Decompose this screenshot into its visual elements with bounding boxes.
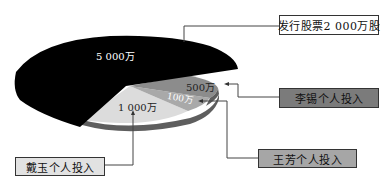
slice-label-daiyu: 1 000万 [118,99,157,114]
callout-daiyu: 戴玉个人投入 [15,157,105,176]
callout-issue: 发行股票2 000万股 [279,15,379,35]
connector-issue [184,26,279,42]
slice-label-issue: 5 000万 [96,48,135,63]
callout-lixi: 李锡个人投入 [279,88,379,108]
arrow-lixi [224,82,229,86]
connector-lixi [228,84,279,97]
callout-wangfang: 王芳个人投入 [258,149,357,168]
